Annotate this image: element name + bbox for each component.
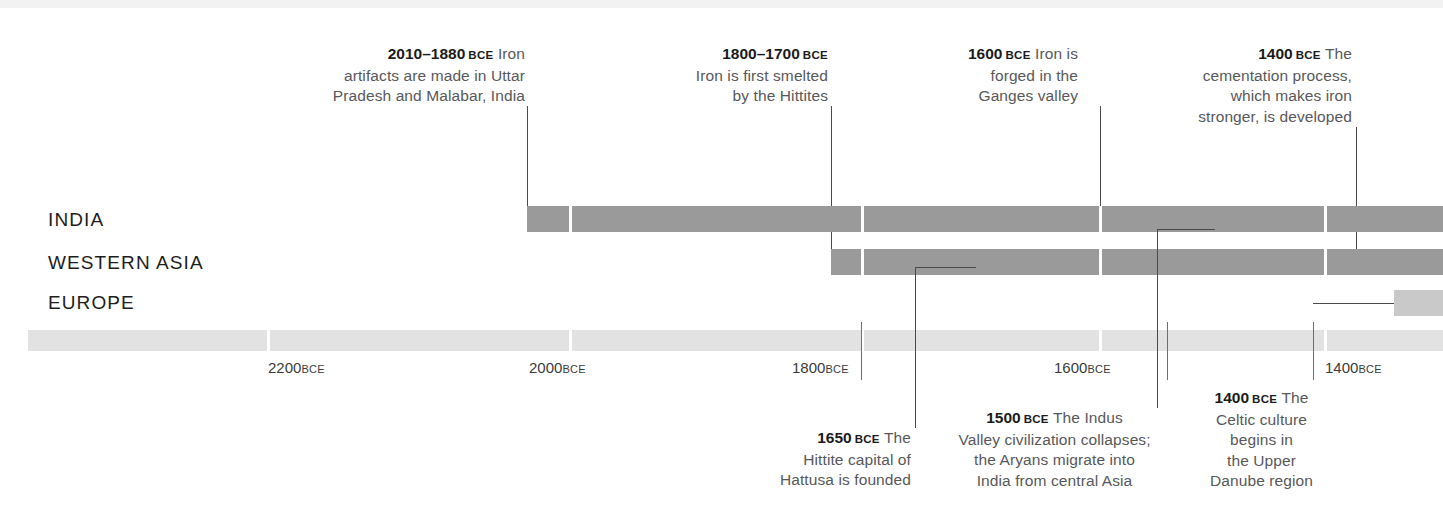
- annotation-line-4: the Upper: [1227, 452, 1296, 469]
- annotation-line-3: Pradesh and Malabar, India: [333, 87, 525, 104]
- timeline-infographic: 2010–1880BCE Iron artifacts are made in …: [0, 0, 1443, 523]
- annotation-date: 1650: [817, 429, 851, 446]
- annotation-line-2: artifacts are made in Uttar: [344, 67, 525, 84]
- annotation-date: 1400: [1258, 45, 1292, 62]
- annotation-line-4: India from central Asia: [977, 472, 1133, 489]
- annotation-line-2: cementation process,: [1203, 67, 1352, 84]
- annotation-era: BCE: [1252, 393, 1277, 405]
- leader-line-1800-1700-bce: [831, 106, 832, 271]
- tick-era: BCE: [562, 363, 586, 375]
- annotation-line-1: Iron: [498, 45, 525, 62]
- axis-tick-gap: [1324, 330, 1327, 351]
- annotation-line-1: The: [1325, 45, 1352, 62]
- annotation-date: 1500: [986, 409, 1020, 426]
- tick-year: 2200: [268, 359, 301, 376]
- timeline-bar-western-asia: [831, 249, 1443, 275]
- annotation-line-1: Iron is: [1035, 45, 1078, 62]
- tick-year: 1800: [792, 359, 825, 376]
- annotation-line-2: Hittite capital of: [803, 451, 911, 468]
- annotation-date: 1400: [1215, 389, 1249, 406]
- annotation-era: BCE: [1296, 49, 1321, 61]
- tick-era: BCE: [1087, 363, 1111, 375]
- axis-bar: [28, 330, 1443, 351]
- annotation-line-2: forged in the: [991, 67, 1078, 84]
- annotation-era: BCE: [1005, 49, 1030, 61]
- axis-tick-label-1800: 1800BCE: [792, 359, 849, 376]
- axis-tick-gap: [1099, 330, 1102, 351]
- tick-era: BCE: [1358, 363, 1382, 375]
- annotation-line-1: The: [1281, 389, 1308, 406]
- tick-era: BCE: [825, 363, 849, 375]
- annotation-line-3: the Aryans migrate into: [974, 451, 1135, 468]
- axis-tick-label-2200: 2200BCE: [268, 359, 325, 376]
- timeline-bar-europe: [1394, 290, 1443, 316]
- annotation-line-3: by the Hittites: [733, 87, 828, 104]
- row-label-western-asia: WESTERN ASIA: [48, 252, 204, 274]
- annotation-date: 2010–1880: [388, 45, 466, 62]
- annotation-line-2: Iron is first smelted: [696, 67, 828, 84]
- row-label-europe: EUROPE: [48, 292, 135, 314]
- bar-tick-gap: [1324, 249, 1327, 275]
- annotation-era: BCE: [855, 433, 880, 445]
- annotation-line-3: which makes iron: [1231, 87, 1352, 104]
- axis-tick-gap: [569, 330, 572, 351]
- annotation-line-1: The: [884, 429, 911, 446]
- annotation-line-2: Celtic culture: [1216, 411, 1307, 428]
- leader-line-1400-bce-cementation: [1356, 127, 1357, 267]
- annotation-1600-bce: 1600BCE Iron is forged in the Ganges val…: [925, 44, 1078, 107]
- bar-tick-gap: [1099, 206, 1102, 232]
- tick-era: BCE: [301, 363, 325, 375]
- annotation-line-3: begins in: [1230, 431, 1293, 448]
- annotation-2010-1880-bce: 2010–1880BCE Iron artifacts are made in …: [305, 44, 525, 107]
- leader-line-1650-bce: [915, 267, 916, 428]
- axis-tick-gap: [267, 330, 270, 351]
- annotation-1400-bce-cementation: 1400BCE The cementation process, which m…: [1155, 44, 1352, 127]
- axis-tick-rule-1800: [861, 322, 862, 380]
- leader-elbow-1650-bce: [915, 267, 976, 268]
- bar-tick-gap: [861, 249, 864, 275]
- axis-tick-label-2000: 2000BCE: [529, 359, 586, 376]
- annotation-line-1: The Indus: [1053, 409, 1123, 426]
- bar-tick-gap: [1324, 206, 1327, 232]
- leader-elbow-1500-bce: [1157, 229, 1215, 230]
- tick-year: 1600: [1054, 359, 1087, 376]
- row-label-india: INDIA: [48, 209, 104, 231]
- axis-tick-rule-1400: [1313, 322, 1314, 380]
- annotation-era: BCE: [1024, 413, 1049, 425]
- axis-tick-label-1400: 1400BCE: [1325, 359, 1382, 376]
- bar-tick-gap: [569, 206, 572, 232]
- tick-year: 1400: [1325, 359, 1358, 376]
- axis-tick-label-1600: 1600BCE: [1054, 359, 1111, 376]
- annotation-line-3: Ganges valley: [978, 87, 1078, 104]
- annotation-date: 1600: [968, 45, 1002, 62]
- tick-year: 2000: [529, 359, 562, 376]
- annotation-line-3: Hattusa is founded: [780, 471, 911, 488]
- annotation-era: BCE: [468, 49, 493, 61]
- axis-tick-rule-1600: [1167, 322, 1168, 380]
- annotation-line-2: Valley civilization collapses;: [958, 431, 1150, 448]
- annotation-1650-bce: 1650BCE The Hittite capital of Hattusa i…: [755, 428, 911, 491]
- top-decorative-strip: [0, 0, 1443, 8]
- annotation-1400-bce-celtic: 1400BCE The Celtic culture begins in the…: [1180, 388, 1343, 492]
- timeline-bar-india: [527, 206, 1443, 232]
- leader-line-1500-bce: [1157, 229, 1158, 408]
- bar-tick-gap: [861, 206, 864, 232]
- annotation-line-5: Danube region: [1210, 472, 1313, 489]
- annotation-1800-1700-bce: 1800–1700BCE Iron is first smelted by th…: [651, 44, 828, 107]
- bar-tick-gap: [1099, 249, 1102, 275]
- annotation-era: BCE: [803, 49, 828, 61]
- annotation-1500-bce: 1500BCE The Indus Valley civilization co…: [952, 408, 1157, 491]
- annotation-date: 1800–1700: [722, 45, 800, 62]
- leader-elbow-1400-bce-celtic: [1313, 303, 1394, 304]
- annotation-line-4: stronger, is developed: [1198, 108, 1352, 125]
